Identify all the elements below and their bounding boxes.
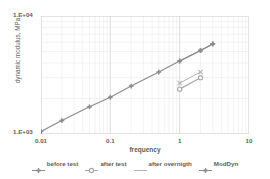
- cross-bar-icon: [32, 160, 45, 167]
- legend-item-1[interactable]: after test: [85, 160, 126, 167]
- data-series-layer: [41, 42, 215, 134]
- legend-label: ModDyn: [214, 160, 238, 167]
- series-0: [41, 42, 215, 134]
- plot-area: [41, 16, 249, 134]
- x-tick-1: 1: [168, 137, 192, 144]
- legend-item-2[interactable]: after overnigth: [134, 160, 192, 167]
- grid-lines: [41, 16, 249, 134]
- series-3: [177, 42, 215, 64]
- x-tick-0.1: 0.1: [98, 137, 122, 144]
- y-axis-bottom-tick-label: 1.E+03: [13, 128, 33, 135]
- cross-bar-icon: [199, 160, 212, 167]
- legend-label: before test: [47, 160, 79, 167]
- legend-label: after test: [100, 160, 126, 167]
- x-tick-0.01: 0.01: [29, 137, 53, 144]
- legend-label: after overnigth: [149, 160, 192, 167]
- chart-container: 1.E+04 1.E+03 dynamic modulus, MPa 0.010…: [0, 0, 270, 179]
- chart-legend: before testafter testafter overnigthModD…: [0, 160, 270, 167]
- x-tick-10: 10: [237, 137, 261, 144]
- x-axis-title: frequency: [41, 146, 249, 153]
- line-icon: [134, 160, 147, 167]
- legend-item-3[interactable]: ModDyn: [199, 160, 238, 167]
- plot-svg: [41, 16, 249, 134]
- y-axis-title: dynamic modulus, MPa: [14, 0, 21, 106]
- plot-border: [41, 16, 249, 134]
- legend-item-0[interactable]: before test: [32, 160, 79, 167]
- circle-open-icon: [85, 160, 98, 167]
